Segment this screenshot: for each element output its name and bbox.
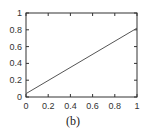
x-tick-label: 0.8	[109, 101, 122, 111]
y-axis: 00.20.40.60.81	[9, 8, 137, 102]
x-tick-label: 0	[23, 101, 28, 111]
y-tick-label: 0	[17, 92, 22, 102]
x-axis: 00.20.40.60.81	[23, 13, 139, 111]
plot-frame	[26, 13, 137, 97]
series-line	[26, 28, 137, 94]
x-tick-label: 0.4	[64, 101, 77, 111]
x-tick-label: 0.6	[86, 101, 99, 111]
figure-caption: (b)	[66, 114, 80, 128]
y-tick-label: 0.2	[9, 75, 22, 85]
plot-area	[26, 28, 137, 94]
y-tick-label: 1	[17, 8, 22, 18]
chart: 00.20.40.60.81 00.20.40.60.81 (b)	[0, 0, 146, 138]
x-tick-label: 0.2	[42, 101, 55, 111]
x-tick-label: 1	[134, 101, 139, 111]
y-tick-label: 0.4	[9, 58, 22, 68]
y-tick-label: 0.6	[9, 42, 22, 52]
y-tick-label: 0.8	[9, 25, 22, 35]
